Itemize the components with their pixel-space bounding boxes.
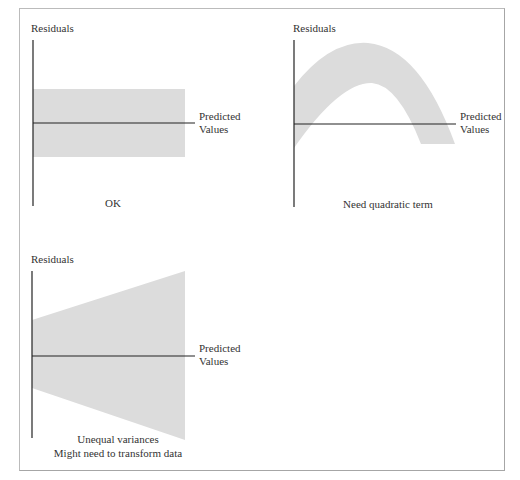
panel-ok-graphic	[33, 40, 195, 206]
y-axis-label: Residuals	[31, 22, 74, 35]
x-axis-label-line1: Predicted	[460, 110, 502, 123]
arch-residual-band	[294, 43, 455, 148]
panel-caption-line1: Unequal variances	[38, 432, 198, 447]
panel-quadratic-graphic	[294, 40, 456, 207]
x-axis-label-line2: Values	[199, 123, 228, 136]
x-axis-label-line1: Predicted	[199, 110, 241, 123]
residual-plots-canvas	[0, 0, 520, 480]
x-axis-label-line1: Predicted	[199, 342, 241, 355]
panel-unequal-variance-graphic	[32, 271, 195, 440]
y-axis-label: Residuals	[31, 253, 74, 266]
panel-caption-line2: Might need to transform data	[38, 446, 198, 461]
panel-caption: Need quadratic term	[318, 197, 458, 212]
panel-caption: OK	[83, 196, 143, 211]
x-axis-label-line2: Values	[460, 123, 489, 136]
y-axis-label: Residuals	[293, 22, 336, 35]
x-axis-label-line2: Values	[199, 355, 228, 368]
